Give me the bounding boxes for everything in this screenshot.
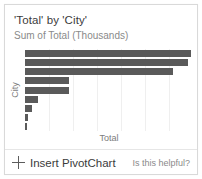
bar — [25, 77, 69, 84]
plus-icon — [12, 156, 25, 169]
card-container: 'Total' by 'City' Sum of Total (Thousand… — [4, 4, 198, 175]
bar — [25, 105, 32, 112]
bar — [25, 123, 27, 130]
plot-area — [25, 49, 193, 131]
analyze-data-suggestion-card: 'Total' by 'City' Sum of Total (Thousand… — [0, 0, 202, 179]
y-axis-title: City — [7, 49, 23, 131]
bar — [25, 96, 38, 103]
bar — [25, 59, 188, 66]
bar — [25, 114, 28, 121]
chart-subtitle: Sum of Total (Thousands) — [14, 30, 128, 41]
chart-title: 'Total' by 'City' — [14, 14, 87, 26]
insert-pivotchart-button[interactable]: Insert PivotChart — [12, 156, 116, 169]
card-footer: Insert PivotChart Is this helpful? — [5, 150, 197, 175]
x-axis-title: Total — [25, 133, 193, 143]
bar — [25, 68, 173, 75]
y-axis-title-label: City — [10, 82, 20, 98]
is-this-helpful-link[interactable]: Is this helpful? — [132, 158, 190, 168]
bar-series — [25, 49, 193, 131]
bar — [25, 87, 69, 94]
chart-plot-wrapper: City Total — [11, 49, 193, 147]
bar — [25, 50, 191, 57]
insert-pivotchart-label: Insert PivotChart — [30, 157, 116, 169]
